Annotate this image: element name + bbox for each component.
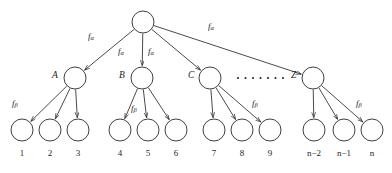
ellipsis-dot-1 [237, 77, 239, 79]
node-label-A: A [52, 71, 58, 81]
node-leaf-1 [11, 119, 33, 141]
node-leaf-2 [39, 119, 61, 141]
edge-label-f-alpha-1: fα [88, 32, 94, 42]
tree-diagram-canvas [0, 0, 392, 173]
node-Z [302, 67, 324, 89]
ellipsis-dot-6 [274, 77, 276, 79]
ellipsis-dot-3 [252, 77, 254, 79]
node-leaf-n1 [333, 119, 355, 141]
node-label-Z: Z [291, 71, 296, 81]
nodes-layer [11, 11, 383, 141]
node-label-C: C [188, 71, 194, 81]
node-leaf-9 [259, 119, 281, 141]
node-C [199, 67, 221, 89]
edge-label-f-beta-4: fβ [356, 99, 362, 109]
edge-Z-to-n−2 [313, 89, 314, 117]
tree-diagram: ABCZ123456789n−2n−1nfαfαfαfαfβfβfβfβ [0, 0, 392, 173]
edge-C-to-8 [216, 88, 235, 120]
ellipsis-dot-5 [267, 77, 269, 79]
edge-label-f-beta-1: fβ [12, 99, 18, 109]
node-leaf-8 [231, 119, 253, 141]
node-leaf-6 [165, 119, 187, 141]
leaf-label-6: 6 [156, 149, 196, 158]
edge-label-f-alpha-2: fα [118, 47, 124, 57]
edge-A-to-2 [55, 88, 70, 118]
node-leaf-n2 [303, 119, 325, 141]
node-leaf-5 [137, 119, 159, 141]
leaf-label-n: n [352, 149, 392, 158]
node-root [132, 11, 154, 33]
edge-A-to-1 [31, 86, 67, 121]
edge-root-to-B [142, 33, 143, 65]
edge-C-to-7 [211, 89, 213, 117]
edge-B-to-6 [148, 88, 169, 120]
edge-Z-to-n−1 [319, 88, 338, 119]
leaf-label-3: 3 [58, 149, 98, 158]
edge-A-to-3 [76, 89, 78, 117]
edge-root-to-C [152, 29, 201, 70]
node-leaf-3 [67, 119, 89, 141]
ellipsis-dot-2 [244, 77, 246, 79]
node-label-B: B [119, 71, 125, 81]
ellipsis-dots [237, 77, 284, 79]
edge-B-to-5 [143, 89, 146, 117]
edge-label-f-beta-3: fβ [252, 99, 258, 109]
ellipsis-dot-7 [282, 77, 284, 79]
edge-label-f-beta-2: fβ [131, 104, 137, 114]
node-leaf-7 [203, 119, 225, 141]
leaf-label-9: 9 [250, 149, 290, 158]
node-leaf-n [361, 119, 383, 141]
edge-label-f-alpha-3: fα [148, 47, 154, 57]
node-A [64, 67, 86, 89]
node-leaf-4 [109, 119, 131, 141]
ellipsis-dot-4 [259, 77, 261, 79]
node-B [131, 67, 153, 89]
edge-label-f-alpha-4: fα [208, 22, 214, 32]
